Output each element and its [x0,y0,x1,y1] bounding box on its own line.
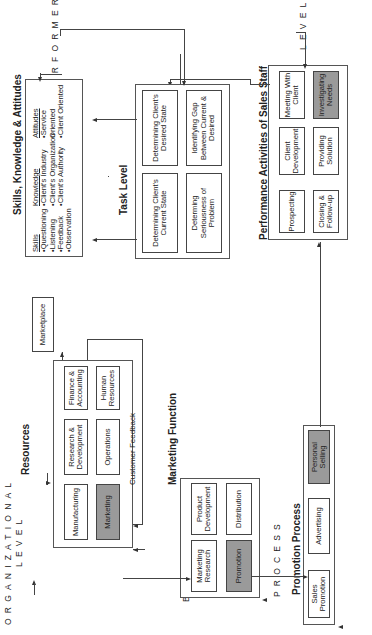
box-identifying-gap: Identifying Gap Between Current & Desire… [186,90,222,166]
box-marketing: Marketing [96,484,120,540]
box-seriousness: Determing Seriousness of Problem [186,173,222,253]
sales-staff-container: Prospecting Client Development Meeting W… [268,65,348,240]
box-marketing-research: Marketing Research [191,540,217,592]
ska-knowledge-column: Knowledge •Client's Industry •Client's O… [32,134,65,207]
promotion-process-container: Sales Promotion Advertising Personal Sel… [303,425,335,625]
resources-container: Manufacturing Research & Development Fin… [53,360,133,548]
to-sales-promotion-arrow-icon [303,575,308,579]
box-desired-state: Determining Client's Desired State [142,90,178,166]
box-human-resources: Human Resources [96,366,120,410]
attitude-item: •Client Oriented [57,80,65,138]
knowledge-item: •Client's Authority [57,134,65,207]
box-sales-promotion: Sales Promotion [308,570,330,618]
skill-item: •Observation [65,208,73,252]
box-meeting-with-client: Meeting With Client [279,71,305,119]
ska-title: Skills, Knowledge & Attitudes [12,74,23,215]
task-level-container: Determining Client's Current State Deter… [135,84,230,259]
process-arrow-icon [338,625,343,629]
performer-to-task-arrow-icon [182,81,186,86]
box-promotion: Promotion [226,540,252,592]
marketplace-arrow-icon [60,352,64,357]
box-product-development: Product Development [191,483,217,535]
organizational-text: ORGANIZATIONAL [3,478,13,625]
box-current-state: Determining Client's Current State [142,173,178,253]
box-operations: Operations [96,419,120,475]
performer-level-word: LEVEL [298,0,308,50]
to-marketing-research-arrow-icon [186,577,191,581]
organizational-level-word: LEVEL [14,515,24,567]
ska-container: Skills •Questioning •Listening •Feedback… [25,79,83,257]
resources-title: Resources [20,424,31,475]
ska-arrow-2-icon [92,118,97,122]
business-arrow-icon [262,598,267,602]
box-personal-selling: Personal Selling [308,430,330,484]
organizational-level-label: ORGANIZATIONAL [3,478,13,625]
customer-feedback-label: Customer Feedback [128,413,137,485]
performer-to-ska-arrow-icon [38,77,42,82]
box-closing-follow-up: Closing & Follow-up [313,190,339,233]
diagram-canvas: ORGANIZATIONAL LEVEL BUSINESS LEVEL PROC… [0,0,372,635]
resources-input-arrow-icon [46,481,51,485]
box-distribution: Distribution [226,483,252,535]
marketing-function-container: Marketing Research Product Development P… [180,478,260,598]
box-providing-solution: Providing Solution [313,127,339,175]
to-sales-staff-arrow-icon [317,242,321,247]
feedback-arrow-icon [133,524,138,528]
box-prospecting: Prospecting [279,190,305,233]
ska-skills-column: Skills •Questioning •Listening •Feedback… [32,208,73,252]
level-to-sales-staff-arrow-icon [303,64,307,69]
box-manufacturing: Manufacturing [64,484,88,540]
box-investigating-needs: Investigating Needs [313,71,339,119]
promotion-process-title: Promotion Process [291,503,302,595]
ska-arrow-1-icon [92,238,97,242]
attitude-item: •Service Oriented [40,80,57,138]
box-client-development: Client Development [279,127,305,175]
box-finance-accounting: Finance & Accounting [64,366,88,410]
ska-attitudes-column: Attitudes •Service Oriented •Client Orie… [32,80,65,138]
organizational-arrow-icon [133,548,138,552]
box-advertising: Advertising [308,498,330,554]
box-marketplace: Marketplace [32,297,54,352]
task-level-title: Task Level [118,165,129,215]
box-research-development: Research & Development [64,419,88,475]
process-level-label: PROCESS [272,519,282,597]
marketing-function-title: Marketing Function [167,393,178,485]
